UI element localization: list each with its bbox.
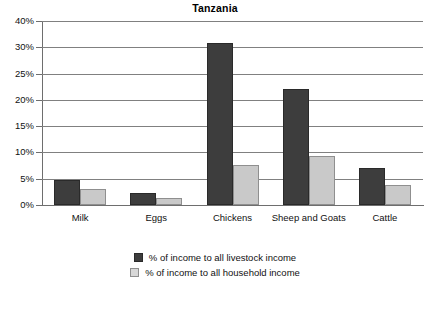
bar (283, 89, 309, 205)
bar (156, 198, 182, 205)
x-axis-category-label: Eggs (118, 212, 194, 223)
bar-group (207, 21, 259, 205)
bar-group (130, 21, 182, 205)
x-axis-category-label: Sheep and Goats (271, 212, 347, 223)
y-axis-tick-label: 0% (0, 200, 34, 210)
bar (54, 180, 80, 205)
y-axis-tick (36, 21, 42, 22)
legend-item-household: % of income to all household income (0, 267, 430, 278)
bar (385, 185, 411, 205)
plot-area (42, 21, 423, 205)
y-axis-tick (36, 205, 42, 206)
bar (130, 193, 156, 205)
chart-title: Tanzania (0, 2, 430, 14)
x-axis-category-label: Cattle (347, 212, 423, 223)
y-axis-tick-label: 25% (0, 69, 34, 79)
x-axis-category-label: Chickens (194, 212, 270, 223)
y-axis-tick (36, 74, 42, 75)
x-axis-category-label: Milk (42, 212, 118, 223)
legend-swatch-dark-icon (134, 253, 143, 262)
bar (309, 156, 335, 205)
y-axis-tick-label: 15% (0, 121, 34, 131)
chart-legend: % of income to all livestock income % of… (0, 252, 430, 282)
legend-label-household: % of income to all household income (145, 267, 300, 278)
y-axis-tick-label: 10% (0, 147, 34, 157)
bar-chart: Tanzania 0%5%10%15%20%25%30%40% % of inc… (0, 0, 430, 309)
y-axis-tick (36, 179, 42, 180)
legend-item-livestock: % of income to all livestock income (0, 252, 430, 263)
bar (359, 168, 385, 205)
legend-swatch-light-icon (130, 268, 139, 277)
bar (233, 165, 259, 205)
legend-label-livestock: % of income to all livestock income (149, 252, 296, 263)
y-axis-tick-label: 40% (0, 16, 34, 26)
y-axis-tick (36, 100, 42, 101)
y-axis-tick-label: 5% (0, 174, 34, 184)
y-axis-tick-label: 30% (0, 42, 34, 52)
bar-group (359, 21, 411, 205)
bar (80, 189, 106, 205)
bar-group (54, 21, 106, 205)
y-axis-tick (36, 152, 42, 153)
bar (207, 43, 233, 205)
y-axis-tick-label: 20% (0, 95, 34, 105)
bar-group (283, 21, 335, 205)
x-axis-line (42, 205, 424, 206)
y-axis-tick (36, 126, 42, 127)
y-axis-tick (36, 47, 42, 48)
